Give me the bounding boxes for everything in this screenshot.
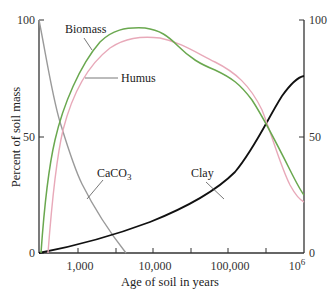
y-label-50: 50	[23, 130, 35, 144]
x-label-100000: 100,000	[211, 259, 250, 273]
x-label-10000: 10,000	[139, 259, 172, 273]
biomass-label: Biomass	[65, 22, 107, 36]
caco3-label: CaCO3	[97, 166, 132, 182]
y-axis-title: Percent of soil mass	[9, 87, 23, 187]
right-y-label-100: 100	[309, 13, 327, 27]
humus-label: Humus	[121, 71, 156, 85]
y-label-100: 100	[17, 13, 35, 27]
clay-label: Clay	[191, 166, 214, 180]
axes	[39, 20, 304, 253]
y-label-0: 0	[29, 246, 35, 260]
biomass-leader	[84, 38, 92, 50]
caco3-leader	[87, 180, 103, 199]
right-y-label-50: 50	[309, 130, 321, 144]
series-biomass	[41, 28, 304, 253]
right-y-label-0: 0	[309, 246, 315, 260]
x-label-1e6: 106	[289, 257, 306, 273]
x-label-1000: 1,000	[67, 259, 94, 273]
series-humus	[48, 37, 304, 253]
soil-composition-chart: 100 50 0 100 50 0 1,000 10,000 100,000 1…	[0, 0, 334, 290]
series-caco3	[39, 20, 126, 253]
x-axis-title: Age of soil in years	[121, 275, 219, 289]
series-clay	[39, 76, 304, 253]
